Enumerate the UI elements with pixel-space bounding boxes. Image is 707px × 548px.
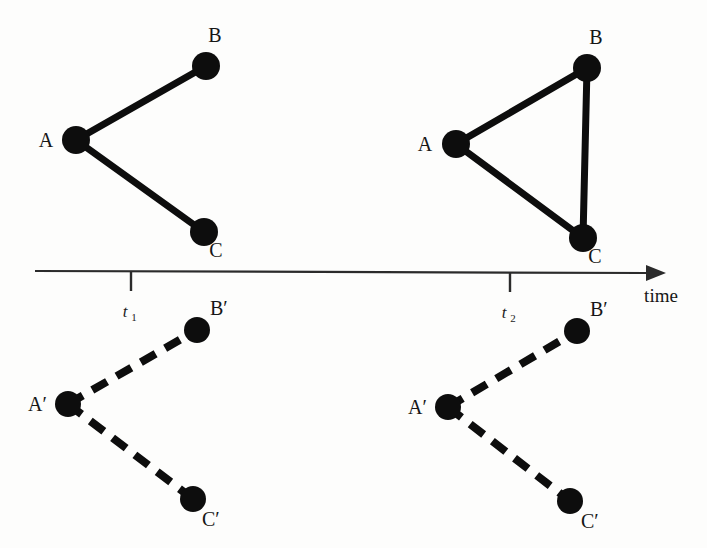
- edge-A-C-upper-left: [76, 140, 204, 232]
- node-Aprime-lower-left[interactable]: [55, 391, 81, 417]
- tick-label-t1: t: [123, 302, 129, 321]
- node-Aprime-lower-right[interactable]: [435, 394, 461, 420]
- time-axis-arrowhead: [646, 265, 666, 281]
- time-axis-line: [35, 271, 646, 273]
- node-label-Aprime-lower-right: A′: [408, 396, 427, 418]
- tick-label-t2: t: [502, 303, 508, 322]
- temporal-graph-diagram: A B C A B C t 1 t 2 time: [0, 0, 707, 548]
- panel-lower-left: A′ B′ C′: [28, 297, 228, 530]
- node-B-upper-left[interactable]: [192, 52, 220, 80]
- tick-label-t2-subscript: 2: [510, 312, 516, 324]
- edge-B-C-upper-right: [583, 68, 587, 238]
- node-label-Cprime-lower-right-letter: C: [581, 510, 594, 532]
- node-label-Bprime-lower-right: B′: [590, 298, 608, 320]
- edge-A-B-upper-right: [456, 68, 587, 144]
- node-label-Aprime-lower-left-prime: ′: [42, 393, 46, 415]
- node-label-C-upper-left: C: [209, 239, 222, 261]
- node-label-Bprime-lower-left-letter: B: [210, 297, 223, 319]
- node-label-Cprime-lower-right: C′: [581, 510, 599, 532]
- edge-A-B-upper-left: [76, 66, 206, 140]
- node-label-Bprime-lower-left: B′: [210, 297, 228, 319]
- node-label-Bprime-lower-right-letter: B: [590, 298, 603, 320]
- figure-canvas: A B C A B C t 1 t 2 time: [0, 0, 707, 548]
- node-label-Bprime-lower-right-prime: ′: [603, 298, 607, 320]
- node-A-upper-left[interactable]: [62, 126, 90, 154]
- node-label-A-upper-right: A: [418, 133, 433, 155]
- node-label-Bprime-lower-left-prime: ′: [223, 297, 227, 319]
- edge-A-C-upper-right: [456, 144, 583, 238]
- node-A-upper-right[interactable]: [442, 130, 470, 158]
- time-axis: t 1 t 2 time: [35, 265, 678, 324]
- node-label-Cprime-lower-left: C′: [202, 508, 220, 530]
- node-Cprime-lower-right[interactable]: [557, 488, 583, 514]
- node-label-Aprime-lower-left: A′: [28, 393, 47, 415]
- node-label-C-upper-right: C: [588, 245, 601, 267]
- edge-Aprime-Cprime-lower-left: [68, 404, 193, 499]
- node-label-Cprime-lower-left-prime: ′: [215, 508, 219, 530]
- edge-Aprime-Cprime-lower-right: [448, 407, 570, 501]
- node-label-Cprime-lower-left-letter: C: [202, 508, 215, 530]
- node-label-A-upper-left: A: [39, 129, 54, 151]
- node-label-Aprime-lower-left-letter: A: [28, 393, 43, 415]
- node-Bprime-lower-right[interactable]: [564, 318, 590, 344]
- panel-lower-right: A′ B′ C′: [408, 298, 608, 532]
- tick-label-t1-subscript: 1: [131, 311, 137, 323]
- node-label-Aprime-lower-right-prime: ′: [422, 396, 426, 418]
- panel-upper-left: A B C: [39, 24, 223, 261]
- node-label-B-upper-left: B: [208, 24, 221, 46]
- time-axis-label: time: [644, 285, 678, 306]
- node-B-upper-right[interactable]: [573, 54, 601, 82]
- node-label-B-upper-right: B: [589, 26, 602, 48]
- edge-Aprime-Bprime-lower-left: [68, 330, 197, 404]
- panel-upper-right: A B C: [418, 26, 603, 267]
- node-label-Aprime-lower-right-letter: A: [408, 396, 423, 418]
- node-Bprime-lower-left[interactable]: [184, 317, 210, 343]
- node-label-Cprime-lower-right-prime: ′: [594, 510, 598, 532]
- edge-Aprime-Bprime-lower-right: [448, 331, 577, 407]
